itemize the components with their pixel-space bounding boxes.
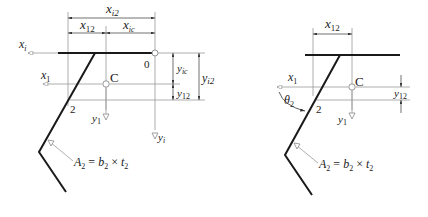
origin-point bbox=[152, 50, 158, 56]
label-point-2: 2 bbox=[316, 103, 322, 115]
left-diagram: xi2 x12 xic xi x1 0 C 2 yic y12 yi2 y1 y… bbox=[18, 1, 215, 192]
area-leader bbox=[296, 145, 318, 163]
label-x-1: x1 bbox=[287, 70, 297, 86]
right-diagram: x12 x1 C 2 θ2 y12 y1 A2 = b2 × t2 bbox=[277, 16, 410, 195]
area-leader bbox=[50, 142, 73, 161]
label-origin: 0 bbox=[144, 58, 150, 70]
label-area: A2 = b2 × t2 bbox=[73, 155, 128, 171]
section-diagrams: xi2 x12 xic xi x1 0 C 2 yic y12 yi2 y1 y… bbox=[0, 0, 428, 217]
web-member bbox=[39, 53, 95, 192]
label-point-2: 2 bbox=[70, 103, 76, 115]
label-y-1: y1 bbox=[91, 112, 101, 126]
label-centroid: C bbox=[355, 74, 364, 89]
label-x-12: x12 bbox=[324, 16, 340, 33]
centroid-point bbox=[103, 81, 109, 87]
label-theta-2: θ2 bbox=[284, 93, 294, 109]
label-area: A2 = b2 × t2 bbox=[318, 157, 373, 173]
label-x-i: xi bbox=[18, 37, 27, 53]
label-x-1: x1 bbox=[40, 68, 50, 84]
label-x-ic: xic bbox=[122, 17, 135, 34]
label-y-1: y1 bbox=[337, 113, 347, 127]
label-x-12: x12 bbox=[79, 17, 95, 34]
label-y-ic: yic bbox=[176, 62, 188, 76]
label-centroid: C bbox=[110, 70, 119, 85]
label-x-i2: xi2 bbox=[105, 1, 119, 18]
label-y-12: y12 bbox=[393, 87, 407, 101]
area-leader-arrow-icon bbox=[48, 140, 54, 146]
label-y-i: yi bbox=[157, 131, 165, 145]
label-y-12: y12 bbox=[176, 87, 190, 101]
label-y-i2: yi2 bbox=[201, 71, 215, 86]
area-leader-arrow-icon bbox=[294, 143, 300, 149]
y-1-arrow-icon bbox=[349, 113, 355, 119]
y-1-arrow-icon bbox=[103, 114, 109, 120]
